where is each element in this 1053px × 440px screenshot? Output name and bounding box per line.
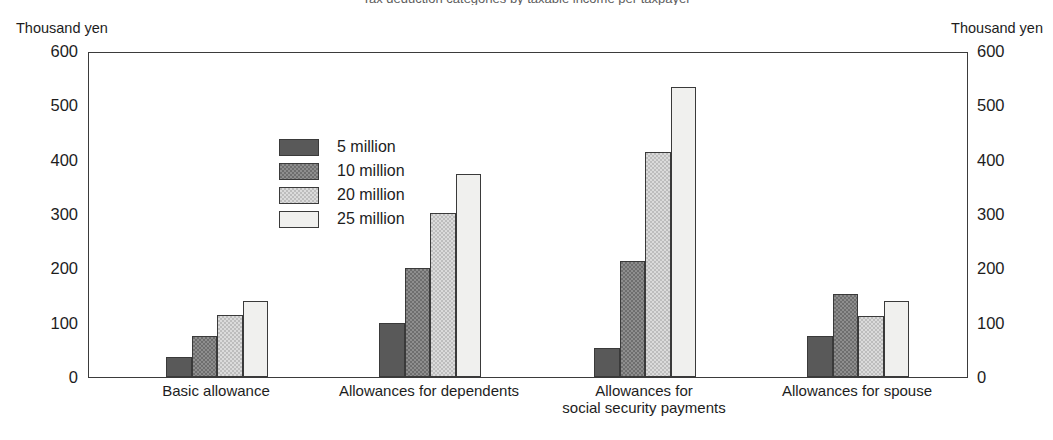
- bar: [594, 348, 620, 377]
- bar: [379, 323, 405, 377]
- legend-swatch-icon: [279, 163, 319, 180]
- bar: [645, 152, 671, 377]
- right-axis-unit-label: Thousand yen: [951, 20, 1043, 36]
- bar: [620, 261, 646, 377]
- bar: [166, 357, 192, 377]
- legend-item: 5 million: [279, 135, 405, 159]
- legend-label: 5 million: [337, 138, 396, 156]
- bar: [430, 213, 456, 377]
- bar: [807, 336, 833, 377]
- legend: 5 million10 million20 million25 million: [279, 135, 405, 231]
- y-tick-label-right-200: 200: [977, 260, 1005, 277]
- y-tick-label-right-100: 100: [977, 315, 1005, 332]
- y-tick-label-right-500: 500: [977, 97, 1005, 114]
- legend-item: 20 million: [279, 183, 405, 207]
- left-axis-unit-label: Thousand yen: [16, 20, 108, 36]
- y-tick-label-right-300: 300: [977, 206, 1005, 223]
- bar: [217, 315, 243, 377]
- y-tick-label-left-600: 600: [50, 43, 78, 60]
- bar: [243, 301, 269, 377]
- y-tick-label-right-600: 600: [977, 43, 1005, 60]
- bar: [671, 87, 697, 377]
- legend-label: 20 million: [337, 186, 405, 204]
- legend-label: 25 million: [337, 210, 405, 228]
- bar: [192, 336, 218, 377]
- y-tick-label-left-300: 300: [50, 206, 78, 223]
- bar: [858, 316, 884, 377]
- chart-page: Tax deduction categories by taxable inco…: [0, 0, 1053, 440]
- y-tick-label-left-100: 100: [50, 315, 78, 332]
- bar: [456, 174, 482, 377]
- category-label: Allowances for spouse: [707, 383, 1007, 400]
- y-tick-label-left-200: 200: [50, 260, 78, 277]
- legend-item: 10 million: [279, 159, 405, 183]
- cropped-title: Tax deduction categories by taxable inco…: [0, 0, 1053, 5]
- y-tick-label-right-400: 400: [977, 152, 1005, 169]
- bar: [833, 294, 859, 377]
- y-tick-label-left-500: 500: [50, 97, 78, 114]
- legend-swatch-icon: [279, 187, 319, 204]
- bar: [884, 301, 910, 377]
- plot-area: 5 million10 million20 million25 million: [88, 52, 968, 378]
- y-tick-label-left-400: 400: [50, 152, 78, 169]
- legend-item: 25 million: [279, 207, 405, 231]
- bar: [405, 268, 431, 377]
- legend-label: 10 million: [337, 162, 405, 180]
- legend-swatch-icon: [279, 139, 319, 156]
- legend-swatch-icon: [279, 211, 319, 228]
